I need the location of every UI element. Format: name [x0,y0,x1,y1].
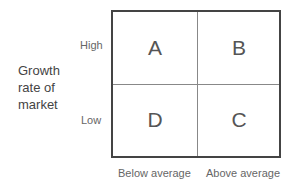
x-label-below-average: Below average [118,167,191,179]
matrix-grid: A B D C [111,10,281,158]
y-axis-title-line-3: market [18,96,78,113]
quadrant-bottom-right: C [197,84,281,156]
y-axis-title-line-1: Growth [18,62,78,79]
quadrant-top-right: B [197,12,281,84]
y-label-low: Low [81,114,101,126]
x-label-above-average: Above average [206,167,280,179]
quadrant-bottom-left: D [113,84,197,156]
y-axis-title: Growth rate of market [18,62,78,113]
y-axis-title-line-2: rate of [18,79,78,96]
quadrant-top-left: A [113,12,197,84]
y-label-high: High [80,39,103,51]
